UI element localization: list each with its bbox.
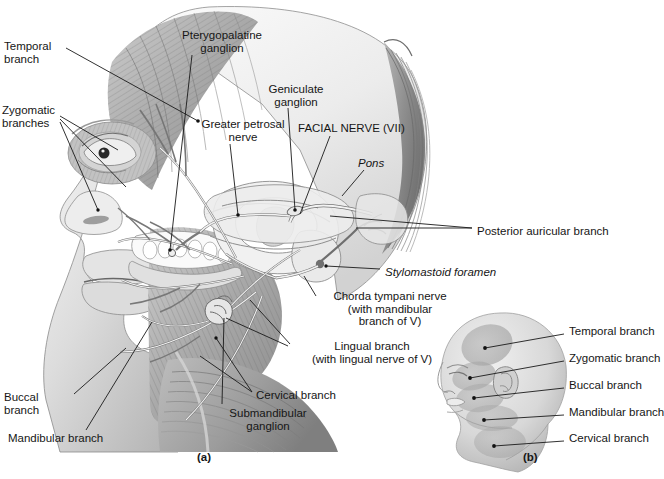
label-posterior-auricular-branch: Posterior auricular branch (477, 225, 609, 238)
label-cervical-branch-b: Cervical branch (569, 432, 649, 445)
panel-caption-a: (a) (197, 451, 211, 463)
label-stylomastoid-foramen: Stylomastoid foramen (385, 266, 496, 279)
label-facial-nerve-vii: FACIAL NERVE (VII) (298, 122, 405, 135)
label-zygomatic-branches-a: Zygomatic branches (2, 104, 55, 129)
panel-b-illustration (438, 313, 567, 472)
label-mandibular-branch-a: Mandibular branch (8, 432, 103, 445)
label-chorda-tympani-nerve: Chorda tympani nerve (with mandibular br… (320, 290, 460, 328)
panel-a-illustration (44, 7, 472, 452)
label-buccal-branch-b: Buccal branch (569, 379, 642, 392)
label-submandibular-ganglion: Submandibular ganglion (218, 407, 318, 432)
label-pons: Pons (358, 157, 384, 170)
label-pterygopalatine-ganglion: Pterygopalatine ganglion (167, 29, 277, 54)
label-greater-petrosal-nerve: Greater petrosal nerve (191, 118, 295, 143)
label-lingual-branch: Lingual branch (with lingual nerve of V) (292, 340, 452, 365)
label-cervical-branch-a: Cervical branch (256, 389, 336, 402)
panel-caption-b: (b) (523, 451, 538, 463)
label-temporal-branch-a: Temporal branch (4, 40, 51, 65)
label-zygomatic-branch-b: Zygomatic branch (569, 352, 660, 365)
label-buccal-branch-a: Buccal branch (4, 391, 39, 416)
label-temporal-branch-b: Temporal branch (569, 325, 655, 338)
label-geniculate-ganglion: Geniculate ganglion (254, 83, 338, 108)
label-mandibular-branch-b: Mandibular branch (569, 406, 664, 419)
